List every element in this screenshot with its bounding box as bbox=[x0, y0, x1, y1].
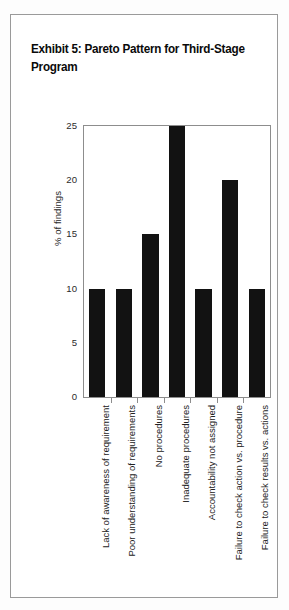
x-axis-tick-label: Poor understanding of requirements bbox=[127, 405, 137, 557]
x-axis-tick-mark bbox=[190, 398, 191, 403]
figure-border: Exhibit 5: Pareto Pattern for Third-Stag… bbox=[10, 14, 278, 598]
x-axis-tick-mark bbox=[137, 398, 138, 403]
x-axis-tick-mark bbox=[243, 398, 244, 403]
y-axis-tick-label: 0 bbox=[53, 392, 77, 402]
x-axis-tick-marks bbox=[84, 398, 270, 403]
bar bbox=[142, 234, 158, 397]
x-axis-tick-label: Accountability not assigned bbox=[207, 405, 217, 520]
bar bbox=[169, 126, 185, 397]
y-axis-tick-labels: 0510152025 bbox=[49, 125, 77, 398]
x-axis-tick-mark bbox=[111, 398, 112, 403]
x-axis-tick-label: Failure to check action vs. procedure bbox=[234, 405, 244, 560]
figure-page: Exhibit 5: Pareto Pattern for Third-Stag… bbox=[0, 0, 289, 610]
y-axis-tick-label: 25 bbox=[53, 121, 77, 131]
y-axis-tick-label: 20 bbox=[53, 175, 77, 185]
x-axis-tick-label: Lack of awareness of requirement bbox=[101, 405, 111, 548]
y-axis-tick-label: 5 bbox=[53, 338, 77, 348]
x-axis-tick-label: Inadequate procedures bbox=[181, 405, 191, 503]
chart-title: Exhibit 5: Pareto Pattern for Third-Stag… bbox=[31, 41, 245, 77]
y-axis-tick-label: 10 bbox=[53, 284, 77, 294]
x-axis-tick-label: Failure to check results vs. actions bbox=[260, 405, 270, 550]
bar bbox=[116, 289, 132, 397]
y-axis-tick-label: 15 bbox=[53, 230, 77, 240]
bar-series bbox=[84, 126, 270, 397]
x-axis-tick-labels: Lack of awareness of requirementPoor und… bbox=[84, 405, 270, 605]
x-axis-tick-label: No procedures bbox=[154, 405, 164, 467]
bar bbox=[222, 180, 238, 397]
bar bbox=[195, 289, 211, 397]
x-axis-tick-mark bbox=[217, 398, 218, 403]
x-axis-tick-mark bbox=[164, 398, 165, 403]
bar bbox=[249, 289, 265, 397]
bar bbox=[89, 289, 105, 397]
